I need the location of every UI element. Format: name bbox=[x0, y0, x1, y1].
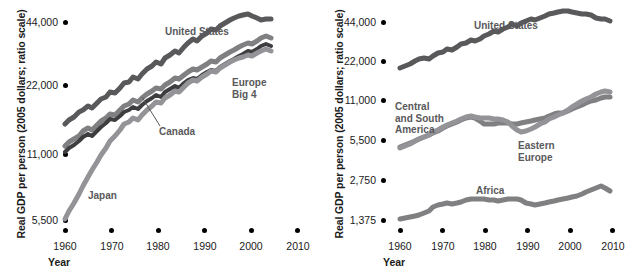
x-tick-dot-icon-3 bbox=[525, 228, 530, 233]
x-tick-right-4: 2000 bbox=[550, 240, 590, 252]
series-label-africa: Africa bbox=[476, 185, 504, 197]
x-tick-right-0: 1960 bbox=[380, 240, 420, 252]
series-label-canada: Canada bbox=[159, 126, 195, 138]
x-tick-right-3: 1990 bbox=[508, 240, 548, 252]
series-label-europe-big4: Europe Big 4 bbox=[232, 77, 266, 100]
x-tick-right-1: 1970 bbox=[423, 240, 463, 252]
series-line-africa bbox=[400, 186, 610, 219]
x-tick-left-2: 1980 bbox=[138, 240, 178, 252]
x-tick-right-5: 2010 bbox=[593, 240, 633, 252]
x-tick-dot-icon-5 bbox=[295, 228, 300, 233]
x-tick-dot-icon-3 bbox=[202, 228, 207, 233]
x-tick-right-2: 1980 bbox=[465, 240, 505, 252]
x-tick-left-3: 1990 bbox=[185, 240, 225, 252]
x-axis-title-right: Year bbox=[383, 256, 405, 268]
x-tick-dot-icon-4 bbox=[568, 228, 573, 233]
plot-area-right bbox=[318, 0, 636, 271]
x-tick-dot-icon-1 bbox=[109, 228, 114, 233]
x-tick-dot-icon-2 bbox=[483, 228, 488, 233]
chart-panel-right: Real GDP per person (2005 dollars; ratio… bbox=[318, 0, 636, 271]
x-tick-dot-icon-1 bbox=[440, 228, 445, 233]
x-tick-dot-icon-4 bbox=[249, 228, 254, 233]
x-tick-left-1: 1970 bbox=[92, 240, 132, 252]
x-tick-dot-icon-2 bbox=[156, 228, 161, 233]
chart-panel-left: Real GDP per person (2005 dollars; ratio… bbox=[0, 0, 318, 271]
series-label-united-states: United States bbox=[165, 26, 229, 38]
x-tick-dot-icon-0 bbox=[63, 228, 68, 233]
x-tick-left-0: 1960 bbox=[45, 240, 85, 252]
x-tick-dot-icon-0 bbox=[398, 228, 403, 233]
x-axis-title-left: Year bbox=[48, 256, 70, 268]
x-tick-left-5: 2010 bbox=[278, 240, 318, 252]
series-label-united-states: United States bbox=[474, 20, 538, 32]
x-tick-left-4: 2000 bbox=[231, 240, 271, 252]
x-tick-dot-icon-5 bbox=[610, 228, 615, 233]
series-label-eastern-europe: Eastern Europe bbox=[518, 140, 555, 163]
series-label-japan: Japan bbox=[88, 190, 117, 202]
series-label-central-south-america: Central and South America bbox=[395, 101, 444, 136]
